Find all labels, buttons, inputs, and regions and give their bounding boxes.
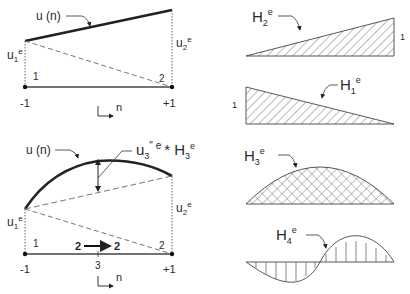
xmax-label: +1 <box>163 97 176 109</box>
h1-label: H1e <box>340 75 361 96</box>
u1-label: u1e <box>7 47 23 64</box>
node-left <box>23 252 27 256</box>
mid-from-label: 2 <box>75 240 81 252</box>
node-2-label: 2 <box>159 73 165 84</box>
h1-unit-label: 1 <box>232 100 237 110</box>
dashed-line <box>25 209 172 254</box>
n-axis-label: n <box>116 101 122 113</box>
linear-element-panel: u (n) u1e u2e 1 2 -1 +1 n <box>7 9 192 116</box>
node-left <box>23 85 27 89</box>
n-axis-icon <box>98 276 113 286</box>
xmax-label: +1 <box>163 263 176 275</box>
curve-label-leader <box>55 150 78 158</box>
shape-function-h4: H4e <box>246 225 394 282</box>
h2-unit-label: 1 <box>400 32 405 42</box>
node-right <box>170 252 174 256</box>
node-2-label: 2 <box>159 240 165 251</box>
n-axis-label: n <box>116 271 122 283</box>
u2-label: u2e <box>176 200 192 217</box>
curve-label: u (n) <box>26 143 51 157</box>
u1-label: u1e <box>7 214 23 231</box>
bubble-label-leader <box>98 151 132 178</box>
mid-to-label: 2 <box>114 240 120 252</box>
hermite-shape-function-diagram: u (n) u1e u2e 1 2 -1 +1 n u (n) u3" e* H… <box>0 0 410 294</box>
shape-function-h3: H3e <box>244 146 394 204</box>
curve-label: u (n) <box>36 9 61 23</box>
quadratic-element-panel: u (n) u3" e* H3e u1e u2e 1 2 2 2 3 -1 +1… <box>7 140 195 286</box>
u2-label: u2e <box>176 35 192 52</box>
bubble-term-label: u3" e* H3e <box>136 140 195 161</box>
h2-label: H2e <box>252 7 273 28</box>
mid-node-label: 3 <box>95 260 101 271</box>
n-axis-icon <box>98 106 113 116</box>
curve-label-leader <box>66 16 90 26</box>
h3-label: H3e <box>244 146 265 167</box>
shape-function-h2: H2e 1 <box>246 7 405 56</box>
h4-label: H4e <box>276 225 297 246</box>
node-1-label: 1 <box>33 238 39 249</box>
xmin-label: -1 <box>20 263 30 275</box>
shape-function-h1: H1e 1 <box>232 75 394 124</box>
xmin-label: -1 <box>20 97 30 109</box>
node-right <box>170 85 174 89</box>
dashed-line <box>25 41 172 87</box>
node-1-label: 1 <box>33 71 39 82</box>
